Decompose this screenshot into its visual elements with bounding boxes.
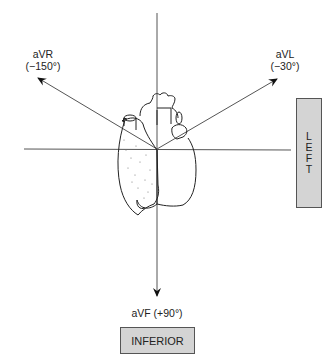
avr-label: aVR (−150°) [22,48,64,72]
inferior-region-box: INFERIOR [120,327,195,354]
avf-label: aVF (+90°) [122,307,192,319]
left-letter: T [306,164,312,175]
avl-lead-angle: (−30°) [266,60,304,72]
heart-stipple [123,139,152,198]
avl-lead-name: aVL [266,48,304,60]
left-region-box: L E F T [296,98,322,208]
heart-illustration [118,93,196,215]
avr-lead-name: aVR [22,48,64,60]
inferior-label: INFERIOR [131,335,184,347]
avr-lead-angle: (−150°) [22,60,64,72]
avr-arrow [38,78,157,149]
avl-label: aVL (−30°) [266,48,304,72]
